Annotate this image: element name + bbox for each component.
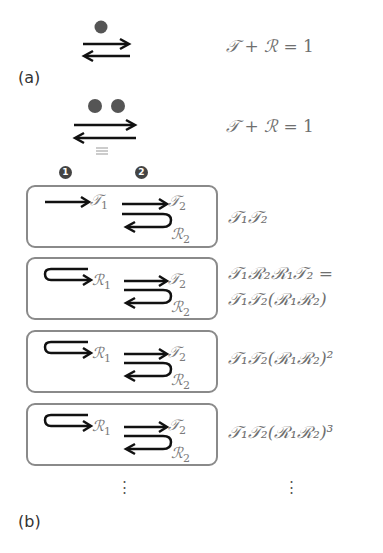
barrier-dot-icon (111, 99, 125, 113)
transmit-arrow-icon (124, 422, 167, 432)
right-arrow-icon (83, 39, 129, 49)
reflect-loop-arrow-icon (124, 363, 171, 381)
continuation-dots-right: ⋮ (284, 478, 299, 496)
path-expression-4: 𝒯₁𝒯₂(ℛ₁ℛ₂)³ (228, 422, 333, 442)
barrier-marker-1: 1 (59, 166, 72, 179)
t2-symbol: 𝒯2 (168, 416, 186, 437)
double-barrier-diagram (70, 95, 142, 157)
reflect-hook-arrow-icon (45, 415, 91, 431)
single-barrier-diagram (78, 20, 138, 64)
t2-symbol: 𝒯2 (168, 270, 186, 291)
path-expression-1: 𝒯₁𝒯₂ (228, 207, 268, 227)
first-barrier-symbol: ℛ1 (92, 417, 111, 438)
reflect-loop-arrow-icon (124, 290, 171, 308)
panel-a-label: (a) (18, 68, 40, 87)
transmit-arrow-icon (45, 197, 89, 207)
reflect-hook-arrow-icon (45, 269, 91, 285)
first-barrier-symbol: 𝒯1 (90, 191, 108, 212)
continuation-dots-left: ⋮ (117, 478, 132, 496)
reflect-loop-arrow-icon (124, 436, 171, 454)
left-arrow-icon (75, 133, 136, 143)
right-arrow-icon (74, 120, 135, 130)
path-expression-3: 𝒯₁𝒯₂(ℛ₁ℛ₂)² (228, 348, 333, 368)
path-box-2: ℛ1 𝒯2 ℛ2 (26, 257, 218, 320)
conservation-equation-a2: 𝒯 + ℛ = 1 (226, 116, 314, 136)
t2-symbol: 𝒯2 (168, 192, 186, 213)
transmit-arrow-icon (124, 276, 167, 286)
path-expression-2-line1: 𝒯₁ℛ₂ℛ₁𝒯₂ = (228, 263, 333, 283)
equivalence-icon (96, 148, 108, 154)
path-box-1: 𝒯1 𝒯2 ℛ2 (26, 185, 218, 248)
barrier-dot-icon (95, 21, 108, 34)
r2-symbol: ℛ2 (171, 444, 190, 465)
barrier-dot-icon (88, 99, 102, 113)
reflect-hook-arrow-icon (45, 342, 91, 358)
first-barrier-symbol: ℛ1 (92, 271, 111, 292)
reflect-loop-arrow-icon (122, 214, 171, 232)
r2-symbol: ℛ2 (171, 225, 190, 246)
path-box-4: ℛ1 𝒯2 ℛ2 (26, 403, 218, 466)
r2-symbol: ℛ2 (171, 298, 190, 319)
transmit-arrow-icon (122, 199, 167, 209)
conservation-equation-a1: 𝒯 + ℛ = 1 (226, 36, 314, 56)
left-arrow-icon (84, 51, 130, 61)
t2-symbol: 𝒯2 (168, 343, 186, 364)
barrier-marker-2: 2 (135, 166, 148, 179)
r2-symbol: ℛ2 (171, 371, 190, 392)
transmit-arrow-icon (124, 349, 167, 359)
path-box-3: ℛ1 𝒯2 ℛ2 (26, 330, 218, 393)
first-barrier-symbol: ℛ1 (92, 344, 111, 365)
panel-b-label: (b) (18, 512, 41, 531)
path-expression-2-line2: 𝒯₁𝒯₂(ℛ₁ℛ₂) (228, 289, 327, 309)
